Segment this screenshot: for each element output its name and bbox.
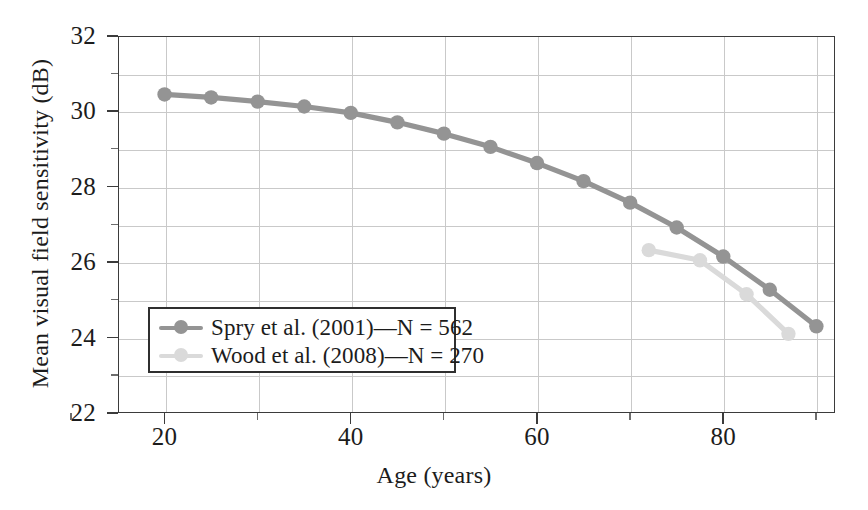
y-tick-major (107, 337, 118, 339)
gridline-horizontal (119, 150, 834, 151)
gridline-horizontal (119, 301, 834, 302)
y-tick-major (107, 35, 118, 37)
chart-figure: 22242628303220406080 Age (years) Mean vi… (0, 0, 868, 510)
gridline-vertical (538, 37, 539, 412)
chart-legend: Spry et al. (2001)—N = 562 Wood et al. (… (148, 307, 456, 373)
legend-item-spry: Spry et al. (2001)—N = 562 (158, 313, 444, 341)
x-tick-label: 20 (125, 424, 205, 449)
y-tick-minor (111, 148, 118, 149)
y-tick-major (107, 110, 118, 112)
gridline-vertical (631, 37, 632, 412)
gridline-vertical (724, 37, 725, 412)
legend-marker (174, 348, 188, 362)
gridline-vertical (817, 37, 818, 412)
y-tick-minor (111, 73, 118, 74)
legend-marker (174, 320, 188, 334)
x-tick-minor (815, 413, 816, 420)
x-tick-label: 60 (497, 424, 577, 449)
x-tick-label: 80 (683, 424, 763, 449)
legend-label-wood: Wood et al. (2008)—N = 270 (211, 344, 484, 367)
y-tick-major (107, 261, 118, 263)
x-axis-title: Age (years) (0, 462, 868, 489)
x-tick-minor (70, 413, 71, 420)
x-tick-label: 40 (311, 424, 391, 449)
y-tick-minor (111, 374, 118, 375)
y-tick-major (107, 412, 118, 414)
legend-item-wood: Wood et al. (2008)—N = 270 (158, 341, 444, 369)
y-tick-minor (111, 299, 118, 300)
gridline-horizontal (119, 75, 834, 76)
y-axis-title: Mean visual field sensitivity (dB) (27, 24, 54, 424)
y-tick-minor (111, 224, 118, 225)
gridline-horizontal (119, 112, 834, 113)
legend-label-spry: Spry et al. (2001)—N = 562 (211, 316, 473, 339)
x-tick-minor (629, 413, 630, 420)
y-tick-major (107, 186, 118, 188)
gridline-horizontal (119, 376, 834, 377)
legend-swatch-wood (158, 348, 204, 362)
gridline-horizontal (119, 263, 834, 264)
x-tick-minor (257, 413, 258, 420)
x-tick-minor (443, 413, 444, 420)
gridline-horizontal (119, 188, 834, 189)
gridline-horizontal (119, 226, 834, 227)
legend-swatch-spry (158, 320, 204, 334)
